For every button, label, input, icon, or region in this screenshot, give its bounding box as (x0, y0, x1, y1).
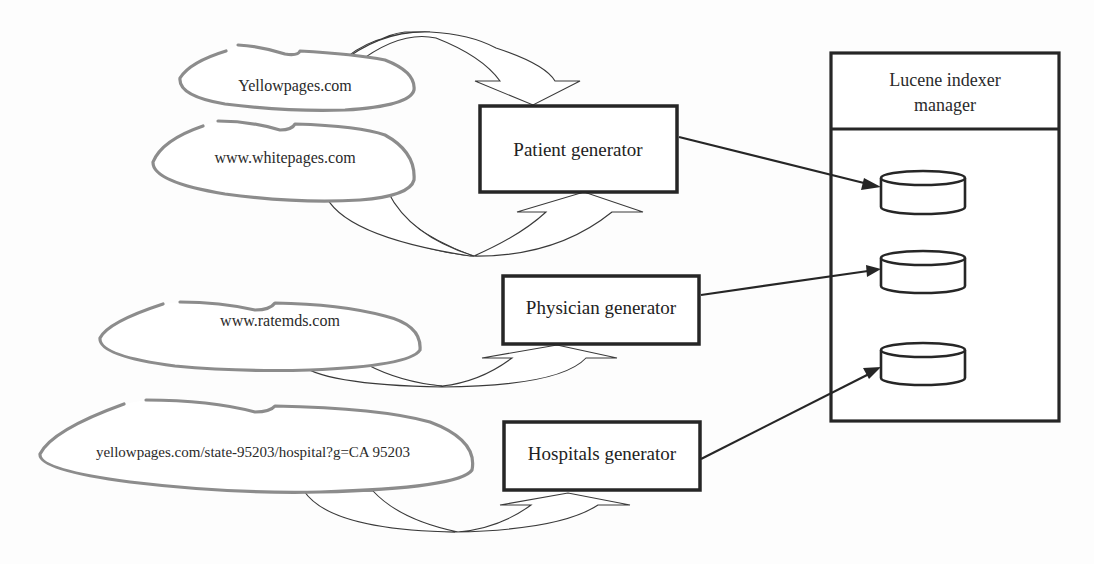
patient-generator-label: Patient generator (513, 139, 643, 160)
indexer-title-line1: Lucene indexer (889, 70, 1000, 90)
source-cloud-hospitals: yellowpages.com/state-95203/hospital?g=C… (40, 400, 473, 492)
source-arrow-hospitals (304, 491, 630, 532)
database-icon (881, 251, 965, 293)
hospitals-generator-label: Hospitals generator (528, 443, 677, 464)
physician-generator-label: Physician generator (526, 297, 677, 318)
indexer-title-line2: manager (914, 95, 976, 115)
database-icon (881, 343, 965, 385)
source-cloud-whitepages: www.whitepages.com (153, 121, 414, 201)
source-cloud-yellowpages: Yellowpages.com (180, 45, 414, 110)
patient-generator-box: Patient generator (480, 106, 677, 192)
source-label-whitepages: www.whitepages.com (214, 149, 356, 167)
physician-generator-box: Physician generator (503, 276, 699, 344)
architecture-diagram: Yellowpages.com www.whitepages.com www.r… (0, 0, 1094, 564)
database-icon (881, 171, 965, 214)
hospitals-generator-box: Hospitals generator (504, 422, 700, 490)
source-label-hospitals: yellowpages.com/state-95203/hospital?g=C… (96, 444, 410, 460)
source-arrow-whitepages (324, 192, 643, 256)
source-label-ratemds: www.ratemds.com (220, 312, 340, 329)
source-label-yellowpages: Yellowpages.com (238, 77, 352, 95)
source-cloud-ratemds: www.ratemds.com (100, 302, 420, 371)
